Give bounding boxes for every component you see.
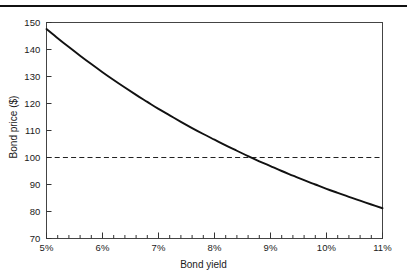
x-tick-label: 8% [198,243,232,253]
axis-ticks [47,23,383,239]
x-tick-label: 11% [366,243,400,253]
x-tick-label: 6% [86,243,120,253]
bond-price-curve [47,29,383,208]
chart-plot-area [0,0,407,276]
y-tick-label: 140 [13,45,41,55]
x-tick-label: 5% [30,243,64,253]
y-axis-title: Bond price ($) [7,57,21,197]
y-tick-label: 150 [13,18,41,28]
y-tick-label: 80 [13,207,41,217]
y-axis-title-text: Bond price ($) [7,57,21,197]
x-tick-label: 7% [142,243,176,253]
x-tick-label: 9% [254,243,288,253]
figure: 708090100110120130140150 5%6%7%8%9%10%11… [0,0,407,276]
x-tick-label: 10% [310,243,344,253]
x-axis-title: Bond yield [0,259,407,271]
plot-frame [47,23,383,239]
